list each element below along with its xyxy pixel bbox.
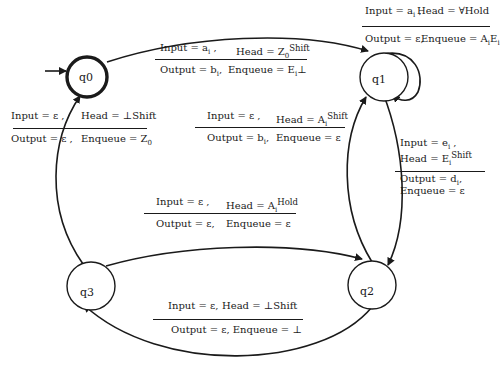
transition-input: Input = ε ,	[156, 196, 210, 208]
transition-output: Output = ε,	[365, 33, 424, 45]
edge-q3-q2	[106, 247, 362, 266]
transition-output: Output = ε ,	[11, 133, 73, 145]
transition-input: Input = ε ,	[11, 110, 65, 122]
state-q2-label: q2	[360, 285, 374, 298]
state-q2-text: q2	[360, 285, 374, 298]
transition-output: Output = ε,	[156, 218, 215, 230]
transition-output: Output = ε, Enqueue = ⊥	[171, 324, 302, 336]
transition-head: Head = ⊥Shift	[81, 110, 156, 122]
transition-label-q2-q1: Input = ε , Head = AiShift Output = bi, …	[203, 110, 353, 150]
transition-enqueue: Enqueue = ε	[226, 218, 291, 230]
transition-enqueue: Enqueue = AiEi	[421, 33, 500, 49]
transition-input: Input = ai ,	[365, 5, 422, 21]
transition-label-q2-q3: Input = ε, Head = ⊥Shift Output = ε, Enq…	[166, 300, 316, 340]
transition-head: Head = ⊥Shift	[222, 300, 297, 312]
transition-head: Head = ∀Hold	[417, 5, 489, 17]
transition-divider	[362, 26, 490, 27]
transition-label-q1-q1: Input = ai , Head = ∀Hold Output = ε, En…	[365, 5, 491, 45]
state-q0-text: q0	[79, 71, 93, 84]
transition-divider	[395, 171, 485, 172]
transition-label-q3-q2: Input = ε , Head = AiHold Output = ε, En…	[156, 196, 316, 236]
transition-divider	[144, 213, 296, 214]
state-q3-label: q3	[80, 286, 94, 299]
transition-label-q0-q1: Input = ai , Head = Z0Shift Output = bi,…	[158, 42, 318, 82]
state-q1-text: q1	[372, 73, 386, 86]
transition-input: Input = ε ,	[207, 110, 261, 122]
transition-input: Input = ε,	[168, 300, 218, 312]
transition-divider	[13, 128, 147, 129]
state-q0-label: q0	[79, 71, 93, 84]
transition-input: Input = ai ,	[160, 42, 217, 58]
transition-enqueue: Enqueue = ε	[400, 185, 465, 197]
transition-label-q3-q0: Input = ε , Head = ⊥Shift Output = ε , E…	[11, 110, 151, 150]
transition-divider	[155, 59, 307, 60]
transition-enqueue: Enqueue = Ei⊥	[228, 64, 307, 80]
transition-label-q1-q2: Input = ei , Head = EiShift Output = di,…	[400, 137, 491, 217]
state-q3-text: q3	[80, 286, 94, 299]
transition-head: Head = EiShift	[400, 149, 472, 169]
transition-output: Output = bi,	[207, 132, 269, 148]
state-q1-label: q1	[372, 73, 386, 86]
transition-enqueue: Enqueue = Z0	[81, 133, 152, 149]
transition-divider	[153, 319, 303, 320]
transition-output: Output = bi,	[160, 64, 222, 80]
transition-enqueue: Enqueue = ε	[276, 132, 341, 144]
transition-divider	[195, 127, 345, 128]
